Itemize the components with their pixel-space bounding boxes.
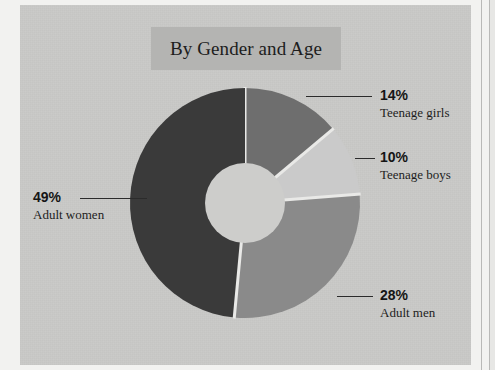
callout-label-adult-women: Adult women [33,207,104,223]
donut-hole [205,163,285,243]
page-root: By Gender and Age 14% Teenage girls 10% … [0,0,495,370]
callout-value-teenage-girls: 14% [380,88,449,103]
callout-value-adult-men: 28% [380,288,435,303]
callout-teenage-boys: 10% Teenage boys [380,150,451,183]
callout-label-adult-men: Adult men [380,305,435,321]
callout-label-teenage-boys: Teenage boys [380,167,451,183]
callout-teenage-girls: 14% Teenage girls [380,88,449,121]
callout-adult-women: 49% Adult women [33,190,104,223]
leader-line-teenage-boys [355,158,375,159]
leader-line-teenage-girls [306,96,372,97]
callout-value-teenage-boys: 10% [380,150,451,165]
callout-adult-men: 28% Adult men [380,288,435,321]
leader-line-adult-men [337,296,373,297]
callout-value-adult-women: 49% [33,190,104,205]
callout-label-teenage-girls: Teenage girls [380,105,449,121]
